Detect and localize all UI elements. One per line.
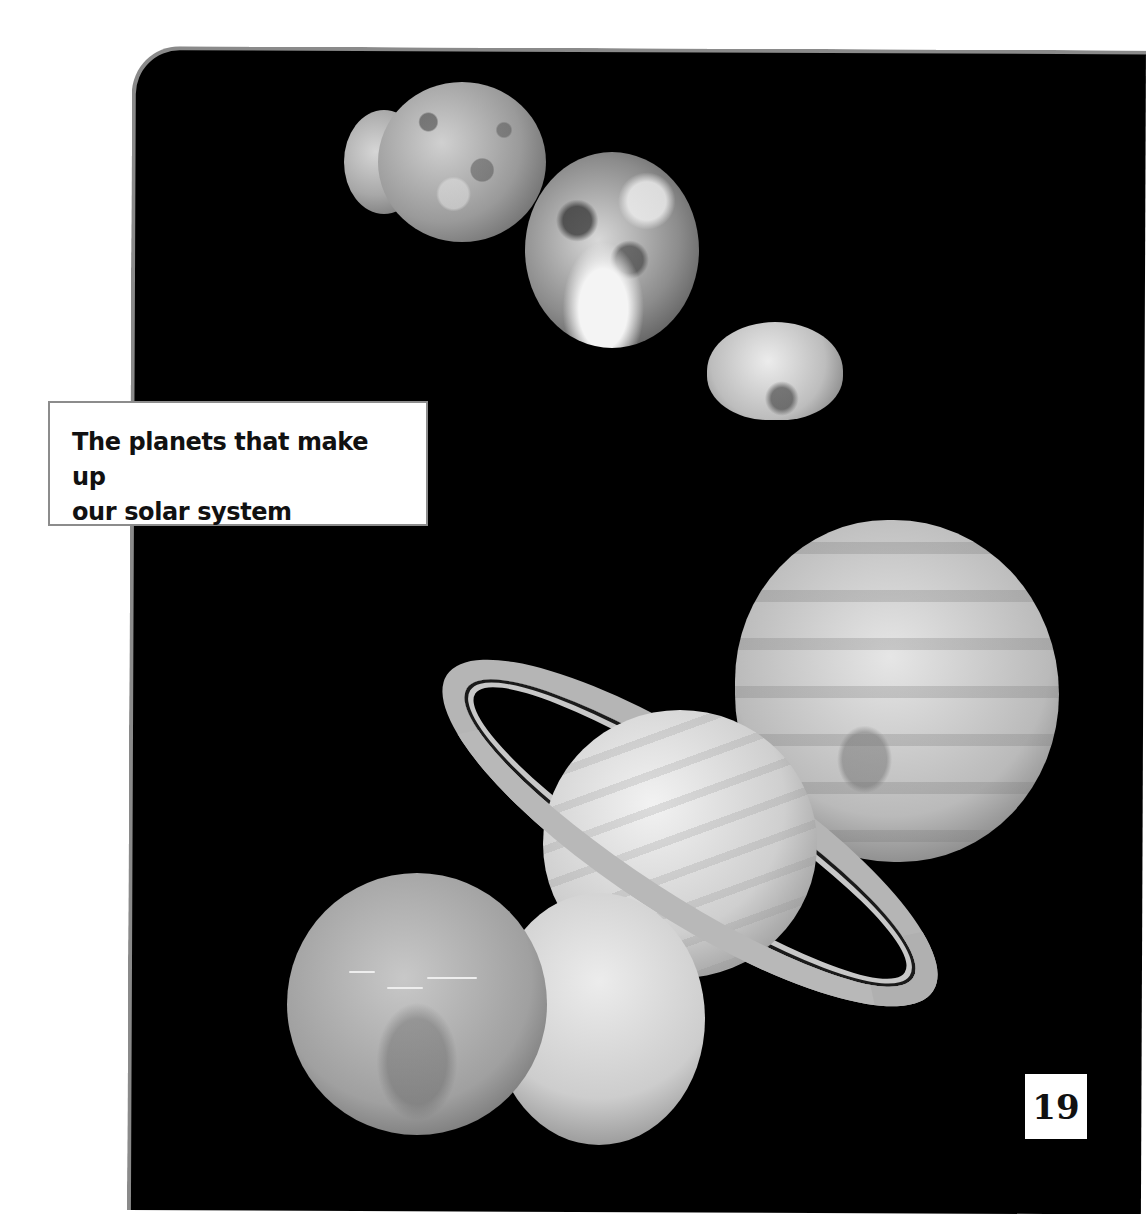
neptune-cloud-streak	[349, 971, 375, 973]
page-number-box: 19	[1025, 1074, 1087, 1139]
caption-line-2: our solar system	[72, 495, 406, 530]
caption-line-1: The planets that make up	[72, 425, 406, 495]
planet-earth	[525, 152, 699, 348]
neptune-cloud-streak	[427, 977, 477, 979]
planet-mars	[707, 322, 843, 420]
caption-box: The planets that make up our solar syste…	[48, 401, 428, 526]
planet-neptune	[287, 873, 547, 1135]
page-number: 19	[1032, 1087, 1079, 1127]
neptune-cloud-streak	[387, 987, 423, 989]
planet-venus	[378, 82, 546, 242]
